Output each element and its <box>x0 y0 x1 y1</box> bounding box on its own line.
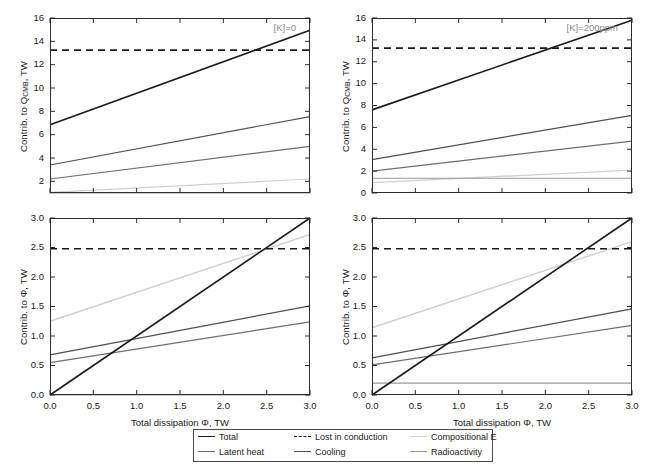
panel-bottom-left: 0.00.51.01.52.02.53.00.00.51.01.52.02.53… <box>50 218 310 395</box>
legend-label: Compositional E <box>431 432 497 442</box>
legend-label: Cooling <box>315 447 346 457</box>
y-tick-label: 2.5 <box>4 241 44 252</box>
x-tick-label: 1.0 <box>117 400 157 411</box>
line-solid-icon <box>410 447 427 457</box>
x-tick-label: 0.5 <box>73 400 113 411</box>
y-tick-label: 2.5 <box>326 241 366 252</box>
plot-area-top-right <box>372 18 632 193</box>
y-tick-label: 0.0 <box>326 389 366 400</box>
y-tick-label: 0.5 <box>4 359 44 370</box>
line-solid-icon <box>198 447 215 457</box>
y-tick-label: 2 <box>326 165 366 176</box>
y-tick-label: 0 <box>326 187 366 198</box>
legend-label: Radioactivity <box>431 447 482 457</box>
legend-row: Latent heatCoolingRadioactivity <box>198 446 488 461</box>
x-tick-label: 0.0 <box>352 400 392 411</box>
panel-bottom-right: 0.00.51.01.52.02.53.00.00.51.01.52.02.53… <box>372 218 632 395</box>
panel-top-left: 246810121416Contrib. to QCMB, TW[K]=0 <box>50 18 310 193</box>
legend-label: Lost in conduction <box>315 432 388 442</box>
line-dashed-icon <box>294 432 311 442</box>
y-axis-label: Contrib. to Φ, TW <box>18 269 29 345</box>
x-tick-label: 2.0 <box>203 400 243 411</box>
y-tick-label: 2 <box>4 175 44 186</box>
y-tick-label: 0.5 <box>326 359 366 370</box>
y-tick-label: 16 <box>326 12 366 23</box>
x-tick-label: 0.5 <box>395 400 435 411</box>
y-axis-label: Contrib. to QCMB, TW <box>340 61 351 152</box>
y-axis-label: Contrib. to Φ, TW <box>340 269 351 345</box>
y-tick-label: 0.0 <box>4 389 44 400</box>
legend-entry-total: Total <box>198 432 238 442</box>
x-tick-label: 2.5 <box>247 400 287 411</box>
x-tick-label: 1.5 <box>482 400 522 411</box>
line-solid-icon <box>410 432 427 442</box>
y-tick-label: 4 <box>4 152 44 163</box>
y-axis-label: Contrib. to QCMB, TW <box>18 61 29 152</box>
plot-area-top-left <box>50 18 310 193</box>
panel-top-right: 0246810121416Contrib. to QCMB, TW[K]=200… <box>372 18 632 193</box>
x-tick-label: 0.0 <box>30 400 70 411</box>
y-tick-label: 14 <box>4 35 44 46</box>
legend-entry-cooling: Cooling <box>294 447 346 457</box>
panel-annotation: [K]=0 <box>274 22 296 33</box>
plot-area-bottom-right <box>372 218 632 395</box>
y-tick-label: 3.0 <box>326 212 366 223</box>
legend-entry-latent-heat: Latent heat <box>198 447 264 457</box>
legend-entry-radioactivity: Radioactivity <box>410 447 482 457</box>
y-tick-label: 16 <box>4 12 44 23</box>
legend-label: Total <box>219 432 238 442</box>
legend: TotalLost in conductionCompositional ELa… <box>193 429 493 462</box>
x-tick-label: 1.0 <box>439 400 479 411</box>
legend-row: TotalLost in conductionCompositional E <box>198 431 488 446</box>
legend-entry-compositional-e: Compositional E <box>410 432 497 442</box>
x-axis-label: Total dissipation Φ, TW <box>50 417 310 428</box>
x-tick-label: 2.5 <box>569 400 609 411</box>
y-tick-label: 3.0 <box>4 212 44 223</box>
x-tick-label: 2.0 <box>525 400 565 411</box>
plot-area-bottom-left <box>50 218 310 395</box>
line-solid-icon <box>294 447 311 457</box>
panel-annotation: [K]=200ppm <box>567 22 619 33</box>
x-tick-label: 3.0 <box>290 400 330 411</box>
legend-entry-lost-in-conduction: Lost in conduction <box>294 432 388 442</box>
x-tick-label: 3.0 <box>612 400 648 411</box>
x-axis-label: Total dissipation Φ, TW <box>372 417 632 428</box>
line-solid-icon <box>198 432 215 442</box>
figure-canvas: 246810121416Contrib. to QCMB, TW[K]=0024… <box>0 0 648 467</box>
y-tick-label: 14 <box>326 33 366 44</box>
legend-label: Latent heat <box>219 447 264 457</box>
x-tick-label: 1.5 <box>160 400 200 411</box>
